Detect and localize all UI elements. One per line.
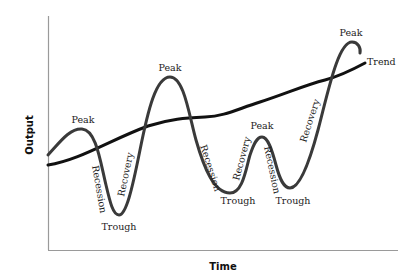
peak-label: Peak	[339, 27, 362, 38]
recovery-label: Recovery	[297, 97, 321, 144]
peak-label: Peak	[158, 62, 181, 73]
business-cycle-diagram: Output Time Peak Peak Peak Peak Trough T…	[0, 0, 418, 277]
trend-label: Trend	[367, 56, 396, 67]
recession-label: Recession	[262, 145, 283, 195]
peak-label: Peak	[71, 114, 94, 125]
trough-label: Trough	[221, 195, 256, 206]
recession-label: Recession	[198, 143, 223, 192]
peak-label: Peak	[250, 120, 273, 131]
x-axis-title: Time	[209, 261, 237, 272]
trough-label: Trough	[276, 195, 311, 206]
trough-label: Trough	[102, 221, 137, 232]
y-axis-title: Output	[24, 115, 35, 155]
